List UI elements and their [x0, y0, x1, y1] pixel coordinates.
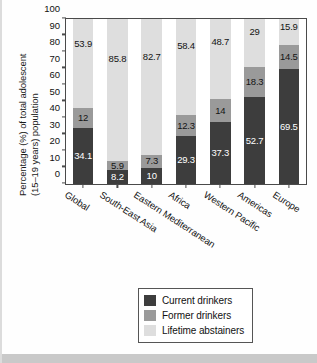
bar-value-label: 18.3	[246, 77, 264, 87]
bar-segment-former-drinkers[interactable]: 5.9	[107, 161, 128, 171]
bar-segment-current-drinkers[interactable]: 34.1	[73, 128, 94, 184]
bar-segment-lifetime-abstainers[interactable]: 53.9	[73, 19, 94, 108]
bar-segment-current-drinkers[interactable]: 8.2	[107, 170, 128, 184]
bar-americas[interactable]: 52.718.329	[244, 19, 265, 184]
bar-value-label: 29	[249, 28, 259, 38]
bar-value-label: 85.8	[109, 54, 127, 64]
bar-value-label: 48.7	[211, 37, 229, 47]
bar-value-label: 14.5	[280, 53, 298, 63]
bar-value-label: 7.3	[145, 157, 158, 167]
legend-swatch-icon	[144, 325, 156, 336]
legend-label: Current drinkers	[162, 295, 232, 306]
y-axis-tick-mark	[62, 133, 66, 134]
y-axis-title-line-2: (15–19 years) population	[29, 93, 40, 196]
bar-segment-lifetime-abstainers[interactable]: 85.8	[107, 19, 128, 161]
legend-label: Former drinkers	[162, 310, 231, 321]
y-axis-tick-mark	[62, 34, 66, 35]
y-axis-tick-label: 60	[49, 69, 66, 80]
bar-segment-lifetime-abstainers[interactable]: 58.4	[176, 19, 197, 115]
y-axis-tick-label: 100	[44, 3, 66, 14]
legend-item[interactable]: Former drinkers	[144, 308, 244, 323]
bar-segment-former-drinkers[interactable]: 7.3	[141, 155, 162, 167]
bar-value-label: 53.9	[74, 39, 92, 49]
y-axis-title: Percentage (%) of total adolescent (15–1…	[2, 0, 42, 205]
y-axis-tick-label: 90	[49, 19, 66, 30]
bar-segment-former-drinkers[interactable]: 12.3	[176, 115, 197, 135]
page-edge-shadow	[2, 354, 317, 363]
x-axis-label-global: Global	[63, 189, 92, 213]
y-axis-tick-label: 40	[49, 102, 66, 113]
chart-figure: Percentage (%) of total adolescent (15–1…	[0, 0, 317, 363]
y-axis-tick-mark	[62, 116, 66, 117]
bar-eastern-mediterranean[interactable]: 107.382.7	[141, 19, 162, 184]
bar-south-east-asia[interactable]: 8.25.985.8	[107, 19, 128, 184]
bar-segment-lifetime-abstainers[interactable]: 29	[244, 19, 265, 67]
legend-item[interactable]: Lifetime abstainers	[144, 323, 244, 338]
x-axis-label-europe: Europe	[271, 189, 302, 215]
legend-label: Lifetime abstainers	[162, 325, 244, 336]
y-axis-tick-mark	[62, 182, 66, 183]
plot-area: 0102030405060708090100 34.11253.98.25.98…	[65, 18, 307, 185]
y-axis-tick-label: 70	[49, 52, 66, 63]
bar-segment-current-drinkers[interactable]: 29.3	[176, 136, 197, 184]
y-axis-tick-mark	[62, 50, 66, 51]
y-axis-title-line-1: Percentage (%) of total adolescent	[17, 54, 28, 196]
bar-western-pacific[interactable]: 37.31448.7	[210, 19, 231, 184]
bar-segment-former-drinkers[interactable]: 14.5	[279, 45, 300, 69]
y-axis-tick-mark	[62, 149, 66, 150]
bar-value-label: 52.7	[246, 136, 264, 146]
y-axis-tick-label: 50	[49, 85, 66, 96]
y-axis-tick-label: 30	[49, 118, 66, 129]
bar-value-label: 82.7	[143, 52, 161, 62]
legend-swatch-icon	[144, 310, 156, 321]
bar-segment-current-drinkers[interactable]: 69.5	[279, 69, 300, 184]
bar-value-label: 15.9	[280, 22, 298, 32]
bar-value-label: 69.5	[280, 122, 298, 132]
plot-inner: 0102030405060708090100 34.11253.98.25.98…	[66, 19, 306, 184]
y-axis-tick-mark	[62, 67, 66, 68]
bar-segment-lifetime-abstainers[interactable]: 15.9	[279, 19, 300, 45]
bar-segment-lifetime-abstainers[interactable]: 82.7	[141, 19, 162, 155]
bar-segment-current-drinkers[interactable]: 10	[141, 168, 162, 185]
bar-value-label: 12.3	[177, 121, 195, 131]
bar-segment-former-drinkers[interactable]: 14	[210, 99, 231, 122]
y-axis-tick-mark	[62, 100, 66, 101]
bar-value-label: 34.1	[74, 151, 92, 161]
bar-europe[interactable]: 69.514.515.9	[279, 19, 300, 184]
x-axis-labels: GlobalSouth-East AsiaEastern Mediterrane…	[65, 185, 307, 255]
x-axis-label-africa: Africa	[167, 189, 193, 211]
y-axis-tick-mark	[62, 166, 66, 167]
bar-global[interactable]: 34.11253.9	[73, 19, 94, 184]
legend-swatch-icon	[144, 295, 156, 306]
y-axis-tick-label: 20	[49, 135, 66, 146]
y-axis-tick-mark	[62, 83, 66, 84]
y-axis-tick-label: 0	[55, 168, 66, 179]
chart-legend: Current drinkersFormer drinkersLifetime …	[138, 288, 253, 343]
bar-value-label: 37.3	[211, 148, 229, 158]
bar-value-label: 14	[215, 106, 225, 116]
bar-segment-current-drinkers[interactable]: 52.7	[244, 97, 265, 184]
y-axis-tick-mark	[62, 17, 66, 18]
bar-africa[interactable]: 29.312.358.4	[176, 19, 197, 184]
bar-segment-lifetime-abstainers[interactable]: 48.7	[210, 19, 231, 99]
bar-value-label: 8.2	[111, 172, 124, 182]
bar-value-label: 12	[78, 113, 88, 123]
x-axis-label-south-east-asia: South-East Asia	[98, 189, 159, 234]
legend-item[interactable]: Current drinkers	[144, 293, 244, 308]
bar-value-label: 29.3	[177, 155, 195, 165]
y-axis-tick-label: 10	[49, 151, 66, 162]
bar-segment-current-drinkers[interactable]: 37.3	[210, 122, 231, 184]
bar-segment-former-drinkers[interactable]: 18.3	[244, 67, 265, 97]
bar-segment-former-drinkers[interactable]: 12	[73, 108, 94, 128]
bar-value-label: 10	[147, 171, 157, 181]
bar-value-label: 5.9	[111, 161, 124, 171]
y-axis-tick-label: 80	[49, 36, 66, 47]
bar-value-label: 58.4	[177, 41, 195, 51]
